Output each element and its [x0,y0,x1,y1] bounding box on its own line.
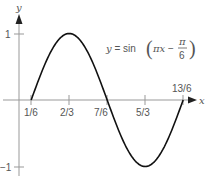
x-axis-label: x [199,95,205,106]
svg-text:): ) [189,37,196,60]
svg-text:−: − [168,43,174,54]
svg-text:(: ( [146,37,153,60]
x-axis-arrow-icon [188,97,197,104]
x-tick-label-2-3: 2/3 [60,107,74,118]
x-tick-label-7-6: 7/6 [94,107,108,118]
y-axis-label: y [15,2,22,13]
y-tick-label-1: 1 [5,29,11,40]
svg-text:πx: πx [152,43,166,54]
equation-label: y = sin ( πx − π 6 ) [105,36,196,61]
x-tick-label-13-6: 13/6 [172,83,192,94]
svg-text:π: π [178,36,186,47]
x-tick-label-5-3: 5/3 [136,107,150,118]
svg-text:6: 6 [179,50,185,61]
y-tick-label-minus1: −1 [0,162,12,173]
y-axis-arrow-icon [16,14,23,24]
x-tick-label-1-6: 1/6 [24,107,38,118]
svg-text:y = sin: y = sin [105,43,136,54]
sine-chart: y x 1 −1 1/6 2/3 7/6 5/3 13/6 y = sin ( … [0,0,207,182]
